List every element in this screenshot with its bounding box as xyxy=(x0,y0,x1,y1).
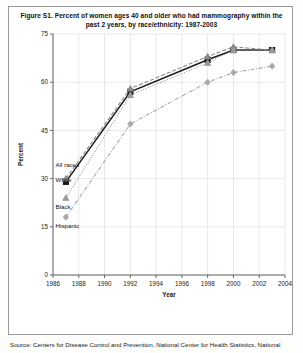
y-tick-label: 30 xyxy=(41,175,49,182)
y-tick-label: 0 xyxy=(44,271,48,278)
y-axis-title: Percent xyxy=(17,142,24,166)
x-axis-title: Year xyxy=(162,291,176,298)
x-tick-label: 1998 xyxy=(201,280,216,287)
figure-screenshot: Figure S1. Percent of women ages 40 and … xyxy=(0,0,303,353)
data-point xyxy=(270,63,275,69)
x-tick-label: 1996 xyxy=(175,280,190,287)
data-point xyxy=(127,86,133,91)
y-tick-label: 75 xyxy=(41,30,49,37)
figure-container: Figure S1. Percent of women ages 40 and … xyxy=(8,6,293,335)
series-annotation: Hispanic xyxy=(56,222,80,229)
x-tick-label: 1994 xyxy=(149,280,164,287)
data-point xyxy=(63,195,69,200)
data-point xyxy=(205,53,211,58)
x-tick-label: 2000 xyxy=(226,280,241,287)
data-point xyxy=(205,79,210,85)
source-note: Source: Centers for Disease Control and … xyxy=(10,341,303,348)
series-black xyxy=(63,47,275,200)
x-tick-label: 2004 xyxy=(278,280,293,287)
series-line xyxy=(66,47,272,179)
x-tick-label: 1992 xyxy=(123,280,138,287)
x-tick-label: 1986 xyxy=(46,280,61,287)
series-line xyxy=(66,50,272,182)
y-tick-label: 45 xyxy=(41,127,49,134)
x-tick-label: 1990 xyxy=(98,280,113,287)
x-tick-label: 1988 xyxy=(72,280,87,287)
y-tick-label: 60 xyxy=(41,78,49,85)
series-line xyxy=(66,66,272,217)
line-chart: 0153045607519861988199019921994199619982… xyxy=(9,7,294,336)
plot-area: 0153045607519861988199019921994199619982… xyxy=(9,7,294,336)
series-annotation: White xyxy=(56,176,72,183)
data-point xyxy=(231,70,236,76)
x-tick-label: 2002 xyxy=(252,280,267,287)
series-all-races xyxy=(63,47,274,184)
y-tick-label: 15 xyxy=(41,223,49,230)
series-annotation: All races xyxy=(56,161,80,168)
series-white xyxy=(63,44,275,181)
series-annotation: Black xyxy=(56,203,72,210)
